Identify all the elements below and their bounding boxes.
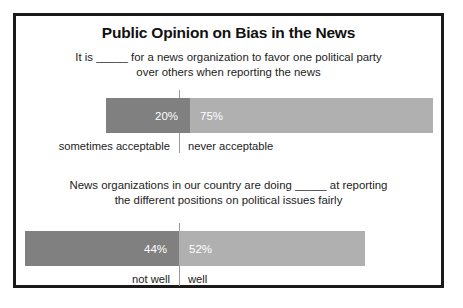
- bar-track-1: 20% 75%: [106, 98, 433, 133]
- category-label-sometimes-acceptable: sometimes acceptable: [59, 140, 179, 152]
- chart-title: Public Opinion on Bias in the News: [16, 24, 441, 42]
- question-2-line-2: the different positions on political iss…: [34, 193, 423, 208]
- bar-row-2: 44% 52%: [25, 231, 365, 266]
- category-label-never-acceptable: never acceptable: [179, 140, 273, 152]
- bar-value-label: 20%: [155, 110, 190, 122]
- question-1-line-2: over others when reporting the news: [34, 65, 423, 80]
- question-1: It is _____ for a news organization to f…: [34, 50, 423, 79]
- category-label-not-well: not well: [132, 273, 179, 285]
- bar-segment-well: 52%: [179, 231, 365, 266]
- question-2-line-1: News organizations in our country are do…: [34, 178, 423, 193]
- bar-segment-sometimes-acceptable: 20%: [106, 98, 190, 133]
- bar-value-label: 44%: [144, 243, 179, 255]
- bar-row-1: 20% 75%: [106, 98, 433, 133]
- category-row-2: not well well: [16, 273, 447, 291]
- bar-segment-not-well: 44%: [25, 231, 179, 266]
- bar-track-2: 44% 52%: [25, 231, 365, 266]
- category-label-well: well: [179, 273, 207, 285]
- question-1-line-1: It is _____ for a news organization to f…: [34, 50, 423, 65]
- category-row-1: sometimes acceptable never acceptable: [16, 140, 447, 158]
- bar-value-label: 75%: [190, 110, 223, 122]
- bar-segment-never-acceptable: 75%: [190, 98, 433, 133]
- chart-figure: Public Opinion on Bias in the News It is…: [13, 13, 444, 288]
- question-2: News organizations in our country are do…: [34, 178, 423, 207]
- bar-value-label: 52%: [179, 243, 212, 255]
